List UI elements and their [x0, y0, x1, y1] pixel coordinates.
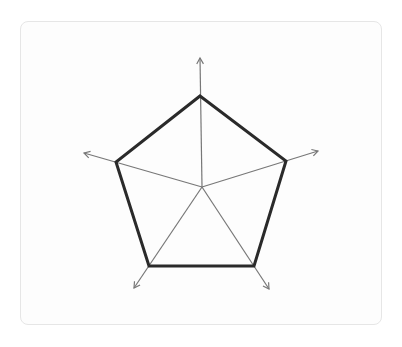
axis-arrow-5	[84, 153, 202, 187]
axis-arrow-4	[134, 187, 202, 288]
axis-arrow-2	[202, 151, 318, 187]
axis-arrow-3	[202, 187, 269, 289]
radar-pentagon-diagram	[0, 0, 402, 347]
axis-arrow-1	[200, 58, 202, 187]
